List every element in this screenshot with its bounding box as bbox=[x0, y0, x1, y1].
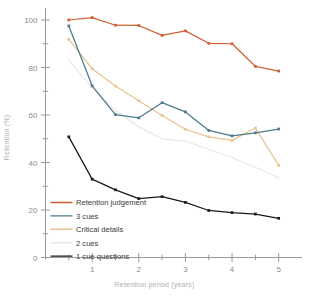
legend-label: 2 cues bbox=[76, 239, 99, 248]
data-point-marker bbox=[114, 85, 117, 88]
legend-item-1-cue-questions: 1 cue questions bbox=[51, 252, 129, 261]
data-point-marker bbox=[161, 34, 164, 37]
y-axis-tick-label: 80 bbox=[29, 64, 38, 73]
data-point-marker bbox=[137, 117, 140, 120]
data-point-marker bbox=[67, 25, 70, 28]
data-point-marker bbox=[231, 42, 234, 45]
data-point-marker bbox=[91, 178, 94, 181]
y-axis-tick-label: 60 bbox=[29, 111, 38, 120]
legend-label: Retention judgement bbox=[76, 198, 147, 207]
data-point-marker bbox=[207, 136, 210, 139]
data-point-marker bbox=[161, 101, 164, 104]
legend-label: Critical details bbox=[76, 225, 123, 234]
y-axis-tick-label: 0 bbox=[33, 254, 38, 263]
data-point-marker bbox=[91, 84, 94, 87]
data-point-marker bbox=[277, 217, 280, 220]
data-point-marker bbox=[254, 127, 257, 130]
legend-item-3-cues: 3 cues bbox=[51, 212, 99, 221]
legend-item-2-cues: 2 cues bbox=[51, 239, 99, 248]
x-axis-tick-label: 4 bbox=[230, 265, 235, 274]
y-axis: 020406080100 bbox=[24, 8, 50, 262]
chart-canvas: 020406080100 12345 Retention judgement3 … bbox=[0, 0, 309, 298]
series-line bbox=[69, 60, 279, 178]
data-point-marker bbox=[91, 16, 94, 19]
data-point-marker bbox=[114, 188, 117, 191]
series-retention-judgement bbox=[67, 16, 280, 72]
legend-item-critical-details: Critical details bbox=[51, 225, 123, 234]
series-line bbox=[69, 26, 279, 136]
data-point-marker bbox=[207, 42, 210, 45]
data-point-marker bbox=[161, 114, 164, 117]
legend-label: 3 cues bbox=[76, 212, 99, 221]
data-point-marker bbox=[67, 136, 70, 139]
data-point-marker bbox=[254, 65, 257, 68]
chart-legend: Retention judgement3 cuesCritical detail… bbox=[51, 198, 147, 261]
series-critical-details bbox=[67, 38, 280, 167]
series-3-cues bbox=[67, 25, 280, 138]
data-point-marker bbox=[137, 24, 140, 27]
series-2-cues bbox=[69, 60, 279, 178]
data-point-marker bbox=[184, 128, 187, 131]
data-point-marker bbox=[184, 111, 187, 114]
x-axis-title: Retention period (years) bbox=[0, 281, 309, 288]
data-point-marker bbox=[277, 164, 280, 167]
data-point-marker bbox=[114, 24, 117, 27]
legend-label: 1 cue questions bbox=[76, 252, 129, 261]
data-point-marker bbox=[184, 201, 187, 204]
series-line bbox=[69, 18, 279, 71]
data-point-marker bbox=[231, 139, 234, 142]
data-point-marker bbox=[231, 211, 234, 214]
data-series-group bbox=[67, 16, 280, 219]
data-point-marker bbox=[137, 99, 140, 102]
x-axis-tick-label: 3 bbox=[183, 265, 188, 274]
data-point-marker bbox=[277, 70, 280, 73]
data-point-marker bbox=[207, 209, 210, 212]
data-point-marker bbox=[114, 113, 117, 116]
x-axis-tick-label: 2 bbox=[137, 265, 142, 274]
retention-line-chart: 020406080100 12345 Retention judgement3 … bbox=[0, 0, 309, 298]
data-point-marker bbox=[91, 67, 94, 70]
data-point-marker bbox=[254, 213, 257, 216]
x-axis-tick-label: 1 bbox=[90, 265, 95, 274]
legend-item-retention-judgement: Retention judgement bbox=[51, 198, 147, 207]
data-point-marker bbox=[184, 30, 187, 33]
data-point-marker bbox=[161, 195, 164, 198]
data-point-marker bbox=[67, 19, 70, 22]
y-axis-tick-label: 20 bbox=[29, 206, 38, 215]
data-point-marker bbox=[231, 135, 234, 138]
x-axis-tick-label: 5 bbox=[276, 265, 281, 274]
data-point-marker bbox=[254, 131, 257, 134]
data-point-marker bbox=[207, 129, 210, 132]
data-point-marker bbox=[67, 38, 70, 41]
y-axis-title: Retention (%) bbox=[3, 103, 10, 173]
data-point-marker bbox=[277, 128, 280, 131]
y-axis-tick-label: 40 bbox=[29, 159, 38, 168]
y-axis-tick-label: 100 bbox=[24, 16, 38, 25]
